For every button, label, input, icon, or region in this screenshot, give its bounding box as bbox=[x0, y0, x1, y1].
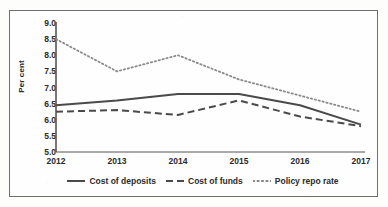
legend-item: Policy repo rate bbox=[253, 177, 339, 186]
series-line-2 bbox=[56, 100, 361, 126]
legend-item: Cost of deposits bbox=[67, 177, 156, 186]
chart-figure: Per cent 9.08.58.07.57.06.56.05.55.0 201… bbox=[0, 0, 388, 207]
chart-legend: Cost of depositsCost of fundsPolicy repo… bbox=[58, 174, 348, 188]
legend-label: Policy repo rate bbox=[275, 177, 339, 186]
legend-item: Cost of funds bbox=[166, 177, 243, 186]
legend-label: Cost of deposits bbox=[89, 177, 156, 186]
legend-swatch-solid bbox=[67, 177, 85, 185]
series-line-1 bbox=[56, 94, 361, 125]
legend-swatch-dashed bbox=[166, 177, 184, 185]
legend-label: Cost of funds bbox=[188, 177, 243, 186]
legend-swatch-dotted bbox=[253, 177, 271, 185]
